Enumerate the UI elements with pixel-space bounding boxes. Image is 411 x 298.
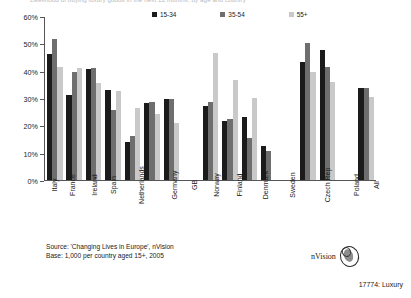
x-axis-label-denmark: Denmark bbox=[248, 183, 276, 235]
bar-group-germany bbox=[142, 17, 161, 180]
y-tick bbox=[40, 181, 44, 182]
y-tick-label: 0% bbox=[28, 177, 38, 186]
x-axis-label-text: All bbox=[373, 181, 380, 189]
chart-caption: 17774: Luxury bbox=[359, 281, 403, 288]
bar-55+-france bbox=[77, 68, 82, 180]
group-gap bbox=[337, 17, 356, 180]
chart-title-clipped: Likelihood of buying luxury goods in the… bbox=[30, 0, 400, 4]
logo-wordmark: nVision bbox=[311, 252, 336, 261]
x-axis-label-text: Finland bbox=[236, 174, 243, 197]
oval-logo-icon bbox=[338, 246, 360, 266]
y-tick bbox=[40, 154, 44, 155]
x-axis-labels: ItalyFranceIrelandSpainNetherlandsGerman… bbox=[45, 183, 377, 235]
y-tick-label: 60% bbox=[24, 13, 38, 22]
bar-55+-all bbox=[369, 97, 374, 180]
bar-group-denmark bbox=[240, 17, 259, 180]
bar-55+-czech-rep bbox=[310, 72, 315, 180]
group-gap bbox=[279, 17, 298, 180]
x-axis-label-sweden: Sweden bbox=[276, 183, 301, 235]
x-axis-label-italy: Italy bbox=[45, 183, 58, 235]
x-axis-label-finland: Finland bbox=[225, 183, 248, 235]
x-axis-label-text: Germany bbox=[171, 171, 178, 200]
bar-group-poland bbox=[318, 17, 337, 180]
x-axis-label-gb: GB bbox=[186, 183, 196, 235]
x-axis-label-all: All bbox=[369, 183, 377, 235]
bar-group-all bbox=[357, 17, 376, 180]
y-tick-label: 10% bbox=[24, 149, 38, 158]
x-axis-label-netherlands: Netherlands bbox=[119, 183, 157, 235]
bar-55+-italy bbox=[57, 67, 62, 180]
x-axis-label-norway: Norway bbox=[201, 183, 225, 235]
x-axis-label-text: Poland bbox=[353, 174, 360, 196]
bar-group-gb bbox=[162, 17, 181, 180]
bar-group-ireland bbox=[84, 17, 103, 180]
chart-title-text: Likelihood of buying luxury goods in the… bbox=[30, 0, 400, 3]
x-axis-label-text: Czech Rep bbox=[325, 168, 332, 203]
y-tick-label: 40% bbox=[24, 67, 38, 76]
group-gap bbox=[181, 17, 200, 180]
bar-55+-spain bbox=[116, 91, 121, 180]
bar-group-finland bbox=[220, 17, 239, 180]
source-line: Source: 'Changing Lives in Europe', nVis… bbox=[46, 242, 174, 251]
bar-group-czech-rep bbox=[298, 17, 317, 180]
chart-page: Likelihood of buying luxury goods in the… bbox=[0, 0, 411, 298]
x-axis-label-text: Italy bbox=[51, 179, 58, 192]
y-tick bbox=[40, 126, 44, 127]
y-tick-label: 20% bbox=[24, 122, 38, 131]
x-axis-label-text: Norway bbox=[213, 173, 220, 197]
plot-area: 0%10%20%30%40%50%60% bbox=[44, 17, 376, 181]
x-axis-label-text: Sweden bbox=[289, 172, 296, 197]
bar-55+-norway bbox=[213, 53, 218, 180]
x-axis-label-text: Ireland bbox=[90, 174, 97, 195]
x-axis-label-spain: Spain bbox=[101, 183, 119, 235]
y-tick bbox=[40, 99, 44, 100]
bar-55+-germany bbox=[155, 114, 160, 180]
x-axis-label-text: Netherlands bbox=[138, 166, 145, 204]
x-axis-label-czech-rep: Czech Rep bbox=[307, 183, 342, 235]
x-axis-label-germany: Germany bbox=[157, 183, 186, 235]
y-tick bbox=[40, 72, 44, 73]
bar-55+-poland bbox=[330, 82, 335, 180]
x-axis-label-ireland: Ireland bbox=[80, 183, 101, 235]
y-tick-label: 30% bbox=[24, 95, 38, 104]
x-axis-label-text: Denmark bbox=[262, 171, 269, 199]
bar-55+-denmark bbox=[252, 98, 257, 180]
bar-group-italy bbox=[45, 17, 64, 180]
base-line: Base: 1,000 per country aged 15+, 2005 bbox=[46, 251, 174, 260]
bar-group-sweden bbox=[259, 17, 278, 180]
bar-55+-ireland bbox=[96, 83, 101, 180]
x-axis-label-poland: Poland bbox=[342, 183, 364, 235]
bar-series-container bbox=[45, 17, 376, 180]
footer-notes: Source: 'Changing Lives in Europe', nVis… bbox=[46, 242, 174, 260]
y-tick bbox=[40, 17, 44, 18]
bar-group-norway bbox=[201, 17, 220, 180]
bar-group-france bbox=[64, 17, 83, 180]
x-axis-label-text: GB bbox=[191, 180, 198, 190]
nvision-logo: nVision bbox=[311, 246, 360, 266]
y-tick-label: 50% bbox=[24, 40, 38, 49]
bar-group-netherlands bbox=[123, 17, 142, 180]
bar-group-spain bbox=[103, 17, 122, 180]
x-axis-label-france: France bbox=[58, 183, 80, 235]
x-axis-label-text: Spain bbox=[110, 176, 117, 194]
x-axis-label-text: France bbox=[69, 174, 76, 196]
bar-55+-finland bbox=[233, 80, 238, 180]
y-tick bbox=[40, 44, 44, 45]
